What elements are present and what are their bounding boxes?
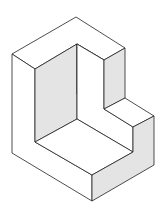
isometric-drawing [0, 0, 165, 214]
